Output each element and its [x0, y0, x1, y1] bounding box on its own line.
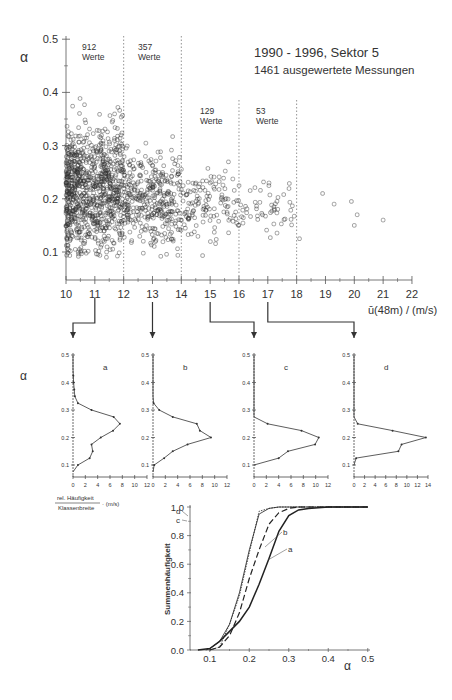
svg-text:0.1: 0.1: [242, 462, 250, 468]
bin-count: 53: [256, 106, 266, 116]
svg-text:0.3: 0.3: [342, 407, 350, 413]
bin-count: 129: [200, 106, 214, 116]
histogram-d: 0.10.20.30.40.502468101214d: [342, 352, 431, 488]
svg-text:0.2: 0.2: [141, 435, 149, 441]
x-tick-label: 16: [233, 288, 245, 300]
svg-text:10: 10: [404, 482, 410, 488]
panel-label: a: [103, 363, 108, 372]
svg-text:12: 12: [325, 482, 331, 488]
svg-text:4: 4: [277, 482, 280, 488]
svg-text:0: 0: [352, 482, 355, 488]
svg-text:0.1: 0.1: [342, 462, 350, 468]
svg-text:0.2: 0.2: [342, 435, 350, 441]
x-tick-label: 13: [146, 288, 158, 300]
svg-text:6: 6: [108, 482, 111, 488]
histogram-a: 0.10.20.30.40.5024681012a: [61, 352, 150, 488]
panel-label: c: [284, 363, 288, 372]
curve-label: a: [288, 545, 293, 554]
x-tick-label: 10: [60, 288, 72, 300]
y-tick-label: 0.2: [43, 193, 58, 205]
svg-text:14: 14: [425, 482, 431, 488]
arrow-c: [210, 302, 254, 338]
scatter-points: [64, 97, 385, 259]
svg-text:0.0: 0.0: [171, 645, 184, 656]
svg-text:0.1: 0.1: [61, 462, 69, 468]
svg-text:0: 0: [252, 482, 255, 488]
x-tick-label: 22: [406, 288, 418, 300]
main-subtitle: 1461 ausgewertete Messungen: [254, 64, 414, 76]
cdf-x-axis-label: α: [344, 659, 351, 673]
scatter-plot: α 1990 - 1996, Sektor 5 1461 ausgewertet…: [20, 33, 437, 316]
svg-text:10: 10: [313, 482, 319, 488]
svg-text:4: 4: [96, 482, 99, 488]
svg-text:10: 10: [132, 482, 138, 488]
svg-text:0.5: 0.5: [141, 352, 149, 358]
svg-text:0.5: 0.5: [342, 352, 350, 358]
svg-text:12: 12: [144, 482, 150, 488]
bin-annotations: 912Werte357Werte129Werte53Werte: [82, 42, 279, 126]
figure: α 1990 - 1996, Sektor 5 1461 ausgewertet…: [0, 0, 452, 700]
svg-text:0.3: 0.3: [141, 407, 149, 413]
svg-text:0.4: 0.4: [61, 380, 69, 386]
y-axis-label: α: [20, 49, 28, 65]
svg-text:0.3: 0.3: [242, 407, 250, 413]
hist-y-axis-label: α: [20, 369, 27, 383]
svg-text:0.4: 0.4: [242, 380, 250, 386]
svg-text:0.3: 0.3: [282, 653, 295, 664]
svg-text:2: 2: [265, 482, 268, 488]
svg-text:0: 0: [151, 482, 154, 488]
y-tick-label: 0.5: [43, 33, 58, 45]
y-tick-label: 0.4: [43, 86, 58, 98]
bin-label: Werte: [82, 52, 105, 62]
svg-text:4: 4: [176, 482, 179, 488]
x-tick-label: 14: [175, 288, 187, 300]
hist-x-label-numerator: rel. Häufigkeit: [57, 495, 94, 501]
svg-text:0.4: 0.4: [141, 380, 149, 386]
svg-text:10: 10: [212, 482, 218, 488]
x-tick-label: 19: [319, 288, 331, 300]
bin-count: 357: [138, 42, 152, 52]
curve-label: d: [176, 507, 180, 516]
cumulative-frequency-plot: 0.00.20.40.60.81.00.10.20.30.40.5abcd: [171, 502, 375, 665]
bin-label: Werte: [256, 116, 279, 126]
histogram-c: 0.10.20.30.40.5024681012c: [242, 352, 331, 488]
svg-text:6: 6: [289, 482, 292, 488]
arrow-a: [73, 298, 95, 338]
bin-label: Werte: [200, 116, 223, 126]
svg-text:0.2: 0.2: [171, 616, 184, 627]
curve-label: b: [283, 528, 288, 537]
svg-text:0.2: 0.2: [242, 435, 250, 441]
cdf-curve-d: [210, 507, 368, 650]
hist-x-label-denominator: Klassenbreite: [58, 505, 95, 511]
svg-text:0.5: 0.5: [61, 352, 69, 358]
bin-arrows: [70, 298, 357, 338]
svg-text:8: 8: [121, 482, 124, 488]
histogram-panels: 0.10.20.30.40.5024681012a0.10.20.30.40.5…: [61, 352, 431, 488]
x-tick-label: 20: [348, 288, 360, 300]
bin-label: Werte: [138, 52, 161, 62]
svg-text:0.3: 0.3: [61, 407, 69, 413]
cdf-y-axis-label: Summenhäufigkeit: [163, 543, 172, 615]
x-tick-label: 17: [262, 288, 274, 300]
svg-text:8: 8: [201, 482, 204, 488]
x-tick-label: 18: [291, 288, 303, 300]
svg-text:0.4: 0.4: [171, 587, 184, 598]
svg-text:6: 6: [188, 482, 191, 488]
y-tick-label: 0.3: [43, 140, 58, 152]
svg-text:0.5: 0.5: [361, 653, 374, 664]
x-tick-label: 15: [204, 288, 216, 300]
svg-text:0.2: 0.2: [61, 435, 69, 441]
svg-text:0.6: 0.6: [171, 559, 184, 570]
svg-text:2: 2: [84, 482, 87, 488]
arrow-d: [268, 302, 354, 338]
svg-text:6: 6: [384, 482, 387, 488]
svg-text:0.8: 0.8: [171, 530, 184, 541]
svg-text:0.4: 0.4: [342, 380, 350, 386]
svg-text:2: 2: [164, 482, 167, 488]
svg-text:8: 8: [302, 482, 305, 488]
svg-text:2: 2: [363, 482, 366, 488]
svg-text:0.4: 0.4: [322, 653, 335, 664]
curve-label: c: [176, 516, 180, 525]
svg-text:12: 12: [414, 482, 420, 488]
x-tick-label: 21: [377, 288, 389, 300]
